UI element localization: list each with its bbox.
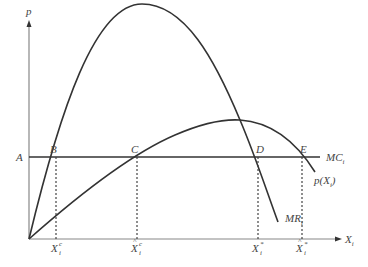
point-d-label: D — [255, 143, 264, 155]
economics-diagram: p Xi A MCi MRi p(Xi) B C D E X c i X ^ c… — [0, 0, 368, 267]
svg-text:*: * — [260, 240, 264, 248]
y-axis-label: p — [25, 5, 32, 17]
price-level-label: A — [15, 151, 23, 163]
x-tick-xstar: X * i — [251, 240, 264, 257]
svg-text:i: i — [59, 249, 61, 257]
point-c-label: C — [131, 143, 139, 155]
svg-text:X: X — [251, 242, 260, 254]
y-axis: p — [25, 5, 32, 239]
svg-text:*: * — [304, 240, 308, 248]
x-tick-xc-hat: X ^ c i — [130, 237, 143, 257]
mr-label: MRi — [284, 212, 303, 227]
x-tick-xstar-hat: X ^ * i — [295, 237, 308, 257]
x-axis-label: Xi — [344, 233, 354, 248]
x-tick-xc: X c i — [50, 240, 63, 257]
mc-label: MCi — [325, 151, 345, 166]
svg-text:i: i — [260, 249, 262, 257]
point-b-label: B — [50, 143, 57, 155]
svg-text:i: i — [304, 249, 306, 257]
point-e-label: E — [299, 143, 307, 155]
mc-line: A MCi — [15, 151, 345, 166]
svg-text:c: c — [139, 240, 143, 248]
x-axis-arrow-icon — [335, 237, 342, 242]
svg-text:X: X — [50, 242, 59, 254]
y-axis-arrow-icon — [27, 20, 32, 27]
demand-label: p(Xi) — [313, 174, 336, 189]
svg-text:i: i — [139, 249, 141, 257]
svg-text:c: c — [59, 240, 63, 248]
